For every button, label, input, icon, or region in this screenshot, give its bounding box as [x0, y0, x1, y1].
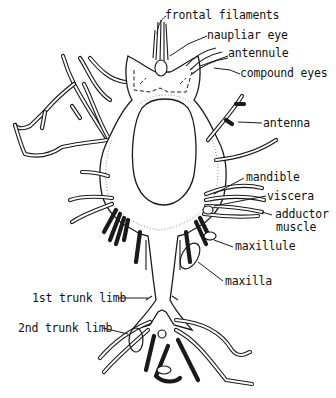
lower-limbs	[100, 320, 252, 384]
label-maxilla: maxilla	[225, 275, 272, 288]
label-compound-eyes: compound eyes	[240, 67, 327, 80]
label-maxillule: maxillule	[235, 240, 296, 253]
label-antenna: antenna	[263, 117, 310, 130]
central-cavity	[132, 99, 196, 205]
frontal-filaments-drawing	[153, 20, 168, 76]
label-mandible: mandible	[246, 171, 300, 184]
anatomy-diagram: frontal filaments naupliar eye antennule…	[0, 0, 336, 398]
label-viscera: viscera	[267, 190, 314, 203]
label-naupliar-eye: naupliar eye	[207, 29, 288, 42]
label-antennule: antennule	[228, 47, 289, 60]
label-frontal-filaments: frontal filaments	[165, 9, 279, 22]
label-first-trunk-limb: 1st trunk limb	[32, 292, 126, 305]
label-muscle: muscle	[276, 221, 316, 234]
label-second-trunk-limb: 2nd trunk limb	[18, 322, 112, 335]
